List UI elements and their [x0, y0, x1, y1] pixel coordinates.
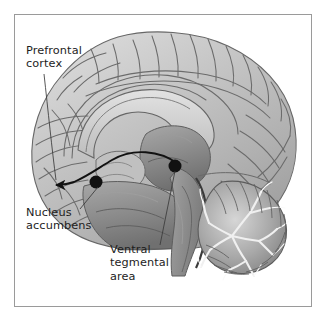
- nucleus-accumbens-marker: [90, 176, 103, 189]
- ventral-tegmental-area-marker: [169, 160, 182, 173]
- label-ventral-tegmental-area: Ventral tegmental area: [110, 243, 169, 283]
- label-prefrontal-cortex: Prefrontal cortex: [26, 44, 82, 71]
- brain-reward-pathway-figure: Prefrontal cortex Nucleus accumbens Vent…: [0, 0, 330, 323]
- label-nucleus-accumbens: Nucleus accumbens: [26, 206, 92, 233]
